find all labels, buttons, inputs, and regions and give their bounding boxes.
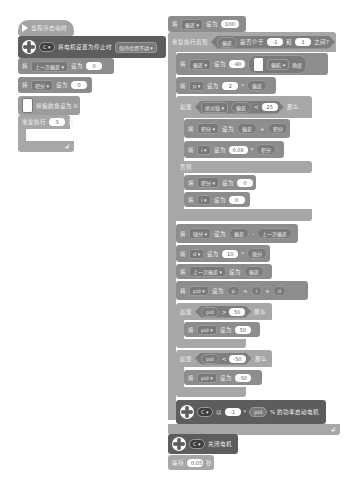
- set-motor-stop-mode-block[interactable]: C ▾ 将电机设置为停止时 保持位置不动 ▾: [18, 36, 166, 58]
- derivative-reporter[interactable]: 微分: [247, 248, 267, 259]
- pid-reporter[interactable]: pid: [201, 354, 219, 364]
- motor-icon: [180, 405, 194, 419]
- start-motor-block[interactable]: C ▾ 以 -1 * pid % 的功率启动电机: [176, 400, 326, 424]
- value-input[interactable]: -90: [229, 60, 245, 68]
- value-input[interactable]: 2: [222, 82, 238, 90]
- set-error-yaw-block[interactable]: 将 偏差 ▾ 设为 -90 偏航 ▾ 角度: [176, 53, 328, 75]
- axis-dropdown[interactable]: 偏航 ▾: [267, 59, 289, 70]
- error-reporter[interactable]: 偏差: [217, 37, 237, 48]
- loop-arrow-icon: ↲: [330, 426, 336, 434]
- reset-yaw-block[interactable]: 将偏航角设为 0: [18, 96, 80, 115]
- set-derivative-block[interactable]: 将 微分 ▾ 设为 偏差 - 上一次偏差: [176, 224, 298, 243]
- value-input[interactable]: 0: [237, 179, 253, 187]
- p-reporter[interactable]: p: [227, 286, 240, 296]
- variable-dropdown[interactable]: 偏差 ▾: [189, 59, 211, 70]
- between-condition[interactable]: 偏差 是否介于 -1 和 1 之间?: [211, 36, 335, 49]
- variable-dropdown[interactable]: 上一次偏差 ▾: [189, 266, 226, 277]
- variable-dropdown[interactable]: pid ▾: [189, 286, 209, 296]
- variable-dropdown[interactable]: d ▾: [189, 249, 204, 259]
- if-pid-low-block[interactable]: 如果 pid < -50 那么: [176, 350, 272, 367]
- low-input[interactable]: -1: [267, 38, 283, 46]
- value-input[interactable]: -1: [225, 408, 241, 416]
- high-input[interactable]: 1: [295, 38, 311, 46]
- error-reporter[interactable]: 偏差: [231, 102, 251, 113]
- clamp-low-block[interactable]: 将 pid ▾ 设为 -50: [184, 370, 262, 385]
- hub-icon: [253, 57, 264, 72]
- if-pid-high-block[interactable]: 如果 pid > 50 那么: [176, 303, 272, 320]
- play-icon: [22, 24, 28, 32]
- variable-dropdown[interactable]: p ▾: [189, 81, 204, 91]
- abs-function-dropdown[interactable]: 绝对值 ▾: [201, 102, 228, 113]
- variable-dropdown[interactable]: pid ▾: [197, 325, 217, 335]
- set-variable-block[interactable]: 将 偏差 ▾ 设为 100: [168, 16, 246, 32]
- value-input[interactable]: 10: [222, 250, 238, 258]
- i-reporter[interactable]: i: [251, 286, 262, 296]
- value-input[interactable]: 0.08: [229, 146, 248, 154]
- reset-integral-block[interactable]: 将 积分 ▾ 设为 0: [184, 175, 256, 190]
- variable-dropdown[interactable]: 偏差 ▾: [181, 19, 203, 30]
- set-variable-block[interactable]: 将 上一次偏差 ▾ 设为 0: [18, 58, 114, 74]
- d-reporter[interactable]: d: [273, 286, 286, 296]
- clamp-high-block[interactable]: 将 pid ▾ 设为 50: [184, 322, 260, 337]
- if-footer: [176, 387, 246, 397]
- value-input[interactable]: -50: [229, 355, 245, 363]
- error-reporter[interactable]: 偏差: [229, 228, 249, 239]
- set-i-block[interactable]: 将 i ▾ 设为 0.08 * 积分: [184, 141, 284, 158]
- set-pid-block[interactable]: 将 pid ▾ 设为 p + i + d: [176, 281, 308, 300]
- yaw-angle-reporter[interactable]: 偏航 ▾ 角度: [248, 55, 307, 74]
- value-input[interactable]: 50: [235, 326, 251, 334]
- variable-dropdown[interactable]: 上一次偏差 ▾: [31, 61, 68, 72]
- if-abs-block[interactable]: 如果 绝对值 ▾ 偏差 < 25 那么: [176, 96, 312, 118]
- if-else-footer: [176, 209, 312, 221]
- variable-dropdown[interactable]: 积分 ▾: [197, 177, 219, 188]
- if-arm: [176, 367, 184, 387]
- value-input[interactable]: 0: [229, 196, 245, 204]
- value-input[interactable]: 0: [71, 81, 87, 89]
- stop-mode-dropdown[interactable]: 保持位置不动 ▾: [115, 42, 157, 53]
- port-dropdown[interactable]: C ▾: [197, 407, 213, 417]
- variable-dropdown[interactable]: 积分 ▾: [197, 123, 219, 134]
- greater-than-condition[interactable]: pid > 50: [195, 306, 251, 318]
- pid-reporter[interactable]: pid: [249, 407, 267, 417]
- variable-dropdown[interactable]: 微分 ▾: [189, 228, 211, 239]
- else-label: 否则: [176, 161, 312, 173]
- integral-reporter[interactable]: 积分: [256, 144, 276, 155]
- error-reporter[interactable]: 偏差: [237, 123, 257, 134]
- when-program-starts-hat[interactable]: 当程序启动时: [18, 20, 74, 36]
- variable-dropdown[interactable]: pid ▾: [197, 373, 217, 383]
- value-input[interactable]: 50: [229, 308, 245, 316]
- repeat-arm: [18, 129, 26, 141]
- error-reporter[interactable]: 偏差: [247, 80, 267, 91]
- repeat-count-input[interactable]: 3: [49, 118, 65, 126]
- value-input[interactable]: 0: [86, 62, 102, 70]
- stop-motor-block[interactable]: C ▾ 关闭电机: [168, 434, 238, 454]
- wait-seconds-input[interactable]: 0.05: [187, 459, 203, 467]
- value-input[interactable]: 25: [262, 103, 278, 111]
- set-integral-sum-block[interactable]: 将 积分 ▾ 设为 偏差 + 积分: [184, 119, 290, 138]
- integral-reporter[interactable]: 积分: [268, 123, 288, 134]
- variable-dropdown[interactable]: i ▾: [197, 195, 211, 205]
- error-reporter[interactable]: 偏差: [244, 266, 264, 277]
- wait-block[interactable]: 等待 0.05 秒: [168, 455, 214, 470]
- reset-i-block[interactable]: 将 i ▾ 设为 0: [184, 192, 250, 207]
- set-p-block[interactable]: 将 p ▾ 设为 2 * 偏差: [176, 77, 276, 94]
- set-last-error-block[interactable]: 将 上一次偏差 ▾ 设为 偏差: [176, 264, 272, 279]
- loop-arrow-icon: ↲: [64, 143, 70, 151]
- pid-reporter[interactable]: pid: [201, 307, 219, 317]
- set-d-block[interactable]: 将 d ▾ 设为 10 * 微分: [176, 245, 270, 262]
- if-arm: [176, 320, 184, 340]
- repeat-until-arm: [168, 52, 176, 420]
- repeat-until-block[interactable]: 重复执行直到 偏差 是否介于 -1 和 1 之间?: [168, 32, 336, 52]
- less-than-condition[interactable]: pid < -50: [195, 353, 252, 365]
- value-input[interactable]: 100: [221, 20, 239, 28]
- less-than-condition[interactable]: 绝对值 ▾ 偏差 < 25: [195, 101, 284, 114]
- variable-dropdown[interactable]: 积分 ▾: [31, 80, 53, 91]
- motor-icon: [172, 437, 186, 451]
- value-input[interactable]: -50: [235, 374, 251, 382]
- repeat-block[interactable]: 重复执行 3 次: [18, 115, 70, 129]
- last-error-reporter[interactable]: 上一次偏差: [257, 228, 292, 239]
- port-dropdown[interactable]: C ▾: [39, 42, 55, 52]
- set-variable-block[interactable]: 将 积分 ▾ 设为 0: [18, 77, 92, 93]
- variable-dropdown[interactable]: i ▾: [197, 145, 211, 155]
- port-dropdown[interactable]: C ▾: [189, 439, 205, 449]
